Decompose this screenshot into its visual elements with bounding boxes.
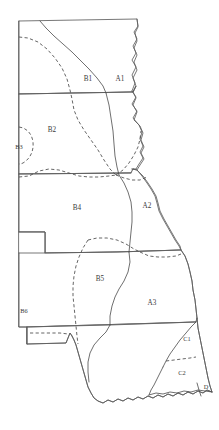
region-label-b4: B4 (73, 204, 82, 212)
region-label-c1: C1 (183, 335, 191, 342)
state-outline-south-dakota (19, 86, 144, 174)
region-label-d: D (204, 383, 209, 390)
region-label-b6: B6 (20, 307, 28, 314)
region-label-a2: A2 (143, 202, 152, 210)
region-label-c2: C2 (178, 369, 186, 376)
map-figure: B1 A1 B2 B3 B4 A2 B5 A3 B6 C1 C2 D (0, 0, 219, 430)
region-label-a3: A3 (148, 299, 157, 307)
region-label-b1: B1 (84, 75, 93, 83)
map-canvas: B1 A1 B2 B3 B4 A2 B5 A3 B6 C1 C2 D (0, 0, 219, 430)
region-label-b5: B5 (96, 275, 105, 283)
region-label-b2: B2 (48, 126, 57, 134)
region-label-a1: A1 (116, 75, 125, 83)
state-outline-oklahoma (27, 318, 212, 403)
state-outline-north-dakota (19, 19, 138, 94)
region-label-b3: B3 (15, 143, 23, 150)
